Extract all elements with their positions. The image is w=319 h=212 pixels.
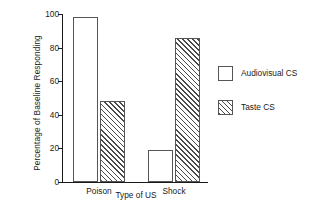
y-tick-label: 60 — [50, 76, 59, 86]
bar-shock-audiovisual — [148, 150, 173, 182]
x-axis-label: Type of US — [62, 190, 210, 200]
y-axis-line — [62, 14, 63, 183]
legend-swatch-open-icon — [218, 66, 233, 81]
bar-chart-figure: Percentage of Baseline Responding 100 80… — [0, 0, 319, 212]
legend: Audiovisual CS Taste CS — [218, 64, 316, 132]
y-tick-label: 0 — [54, 177, 59, 187]
plot-area: 100 80 60 40 20 0 Poison Shock — [62, 14, 210, 182]
y-tick-label: 40 — [50, 110, 59, 120]
legend-item-taste-cs: Taste CS — [218, 98, 316, 116]
bar-shock-taste — [175, 38, 200, 182]
legend-swatch-hatch-icon — [218, 100, 233, 115]
y-axis-label: Percentage of Baseline Responding — [32, 3, 42, 203]
bar-poison-taste — [100, 101, 125, 182]
legend-item-audiovisual-cs: Audiovisual CS — [218, 64, 316, 82]
bar-poison-audiovisual — [73, 17, 98, 182]
y-tick-label: 80 — [50, 43, 59, 53]
legend-label-audiovisual-cs: Audiovisual CS — [241, 68, 297, 78]
x-axis-line — [62, 182, 208, 183]
legend-label-taste-cs: Taste CS — [241, 102, 275, 112]
y-tick-label: 20 — [50, 143, 59, 153]
y-tick-label: 100 — [45, 9, 59, 19]
